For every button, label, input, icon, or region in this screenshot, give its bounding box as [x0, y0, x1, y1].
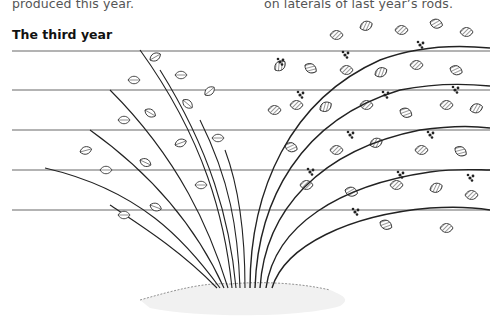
fruiting-foliage — [268, 18, 484, 233]
bramble-training-illustration — [0, 0, 490, 330]
soil-mound — [140, 283, 345, 316]
new-canes — [45, 50, 245, 288]
fruiting-canes — [250, 46, 490, 288]
new-cane-leaves — [79, 51, 224, 219]
